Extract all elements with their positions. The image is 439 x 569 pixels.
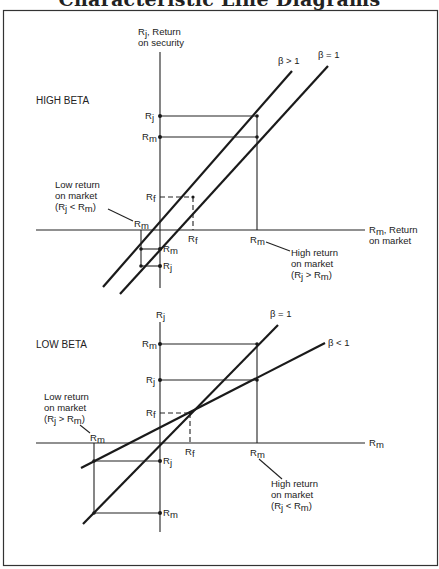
note-line: on market xyxy=(44,402,87,413)
leader-line xyxy=(259,459,282,479)
note-line: (Rj < Rm) xyxy=(271,500,312,513)
note-line: (Rj > Rm) xyxy=(291,269,332,282)
high-beta-heading: HIGH BETA xyxy=(36,95,89,106)
note-line: on market xyxy=(291,258,334,269)
intersect-dot xyxy=(255,114,259,118)
rj-high-point xyxy=(158,114,162,118)
low-return-note: Low return on market (Rj < Rm) xyxy=(55,179,133,221)
characteristic-line-diagrams: HIGH BETA Rj, Return on security Rm, Ret… xyxy=(0,0,439,569)
beta-greater-than-one-line xyxy=(103,71,292,287)
rm-x-high-label: Rm xyxy=(250,234,265,247)
figure-frame xyxy=(4,11,438,566)
rf-point xyxy=(191,195,194,198)
note-line: High return xyxy=(291,247,338,258)
intersect-dot xyxy=(255,135,259,139)
intersect-dot xyxy=(92,511,96,515)
high-return-note: High return on market (Rj > Rm) xyxy=(266,242,338,282)
intersect-dot xyxy=(255,378,259,382)
note-line: on market xyxy=(271,489,314,500)
intersect-dot xyxy=(139,247,143,251)
intersect-dot xyxy=(92,459,96,463)
note-line: on market xyxy=(55,190,98,201)
x-axis-label-line2: on market xyxy=(369,235,412,246)
rj-low-point xyxy=(158,264,162,268)
rm-x-high-label: Rm xyxy=(250,447,265,460)
rm-high-point xyxy=(158,342,162,346)
rj-low-point xyxy=(158,459,162,463)
note-line: (Rj < Rm) xyxy=(55,201,96,214)
beta-lt-1-label: β < 1 xyxy=(328,337,350,348)
rm-high-point xyxy=(158,135,162,139)
rj-high-point xyxy=(158,378,162,382)
rm-low-label: Rm xyxy=(163,243,178,256)
note-line: (Rj > Rm) xyxy=(44,413,85,426)
leader-line xyxy=(266,242,290,251)
rm-low-point xyxy=(158,511,162,515)
rm-low-point xyxy=(158,247,162,251)
high-beta-diagram: HIGH BETA Rj, Return on security Rm, Ret… xyxy=(36,26,418,294)
rf-x-label: Rf xyxy=(188,233,198,246)
note-line: Low return xyxy=(55,179,100,190)
beta-gt-1-label: β > 1 xyxy=(278,55,300,66)
rf-x-label: Rf xyxy=(185,446,195,459)
rj-low-label: Rj xyxy=(163,260,172,273)
y-axis-label-line2: on security xyxy=(138,37,184,48)
intersect-dot xyxy=(139,264,143,268)
note-line: Low return xyxy=(44,391,89,402)
rj-top-label: Rj xyxy=(145,110,154,123)
beta-eq-1-label: β = 1 xyxy=(270,308,292,319)
note-line: High return xyxy=(271,478,318,489)
low-beta-diagram: LOW BETA Rj Rm β = 1 β < 1 Rm Rj Rf Rf R… xyxy=(36,308,384,532)
beta-eq-1-label: β = 1 xyxy=(318,49,340,60)
intersect-dot xyxy=(255,342,259,346)
x-axis-label: Rm xyxy=(369,437,384,450)
high-return-note: High return on market (Rj < Rm) xyxy=(259,459,318,513)
beta-less-than-one-line xyxy=(81,343,325,468)
rm-low-label: Rm xyxy=(163,507,178,520)
rm-top-label: Rm xyxy=(142,131,157,144)
rf-point xyxy=(188,411,191,414)
rf-y-label: Rf xyxy=(146,407,156,420)
beta-equal-one-line xyxy=(83,325,278,524)
low-beta-heading: LOW BETA xyxy=(36,339,87,350)
leader-line xyxy=(108,209,133,221)
rm-top-label: Rm xyxy=(142,338,157,351)
y-axis-label: Rj xyxy=(156,309,165,322)
rj-top-label: Rj xyxy=(146,374,155,387)
leader-line xyxy=(80,425,90,433)
low-return-note: Low return on market (Rj > Rm) xyxy=(44,391,90,433)
rj-low-label: Rj xyxy=(163,455,172,468)
rm-x-low-label: Rm xyxy=(134,218,149,231)
rf-y-label: Rf xyxy=(146,191,156,204)
